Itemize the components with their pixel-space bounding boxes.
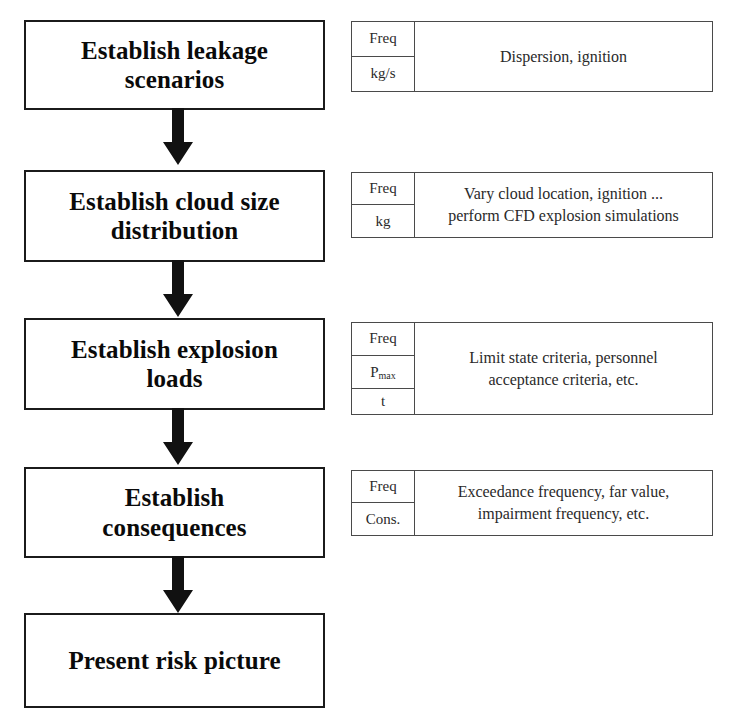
note-unit-cell: Freq xyxy=(352,173,414,205)
note-unit-cell: kg xyxy=(352,205,414,237)
flowchart-canvas: Establish leakage scenarios Freq kg/s Di… xyxy=(0,0,730,726)
flow-arrow-3 xyxy=(160,408,196,466)
flow-step-box-2[interactable]: Establish cloud size distribution xyxy=(24,170,325,262)
note-table-3: Freq Pmax t Limit state criteria, person… xyxy=(351,322,713,415)
note-unit-label: kg/s xyxy=(370,65,395,82)
note-table-1: Freq kg/s Dispersion, ignition xyxy=(351,21,713,92)
flow-step-label-2: Establish cloud size distribution xyxy=(69,187,279,246)
note-description-3: Limit state criteria, personnel acceptan… xyxy=(415,323,712,414)
flow-step-label-1: Establish leakage scenarios xyxy=(81,36,268,95)
flow-step-box-5[interactable]: Present risk picture xyxy=(24,613,325,708)
note-unit-label: Freq xyxy=(369,478,397,495)
flow-step-box-3[interactable]: Establish explosion loads xyxy=(24,318,325,410)
flow-step-box-1[interactable]: Establish leakage scenarios xyxy=(24,20,325,110)
note-description-text: Vary cloud location, ignition ... perfor… xyxy=(448,183,679,226)
note-unit-label: Freq xyxy=(369,330,397,347)
note-unit-cell: Freq xyxy=(352,471,414,503)
note-units-2: Freq kg xyxy=(352,173,415,237)
note-unit-cell: t xyxy=(352,389,414,414)
flow-arrow-4 xyxy=(160,556,196,614)
note-table-4: Freq Cons. Exceedance frequency, far val… xyxy=(351,470,713,536)
note-unit-subscript: max xyxy=(379,370,396,381)
note-description-text: Exceedance frequency, far value, impairm… xyxy=(458,481,670,524)
note-unit-label: kg xyxy=(376,213,391,230)
note-description-text: Dispersion, ignition xyxy=(500,46,627,68)
note-unit-label: Freq xyxy=(369,180,397,197)
flow-step-label-5: Present risk picture xyxy=(68,646,280,676)
note-unit-label: Cons. xyxy=(366,511,401,528)
flow-step-label-3: Establish explosion loads xyxy=(71,335,278,394)
note-units-3: Freq Pmax t xyxy=(352,323,415,414)
note-unit-label: t xyxy=(381,393,385,410)
note-description-2: Vary cloud location, ignition ... perfor… xyxy=(415,173,712,237)
note-description-4: Exceedance frequency, far value, impairm… xyxy=(415,471,712,535)
note-units-1: Freq kg/s xyxy=(352,22,415,91)
note-unit-label: P xyxy=(370,364,378,381)
note-unit-cell: Cons. xyxy=(352,503,414,535)
note-unit-cell-pmax: Pmax xyxy=(352,356,414,390)
note-unit-cell: Freq xyxy=(352,22,414,57)
flow-step-box-4[interactable]: Establish consequences xyxy=(24,467,325,558)
note-description-1: Dispersion, ignition xyxy=(415,22,712,91)
note-unit-label: Freq xyxy=(369,30,397,47)
note-table-2: Freq kg Vary cloud location, ignition ..… xyxy=(351,172,713,238)
note-unit-cell: Freq xyxy=(352,323,414,356)
flow-arrow-2 xyxy=(160,260,196,318)
flow-arrow-1 xyxy=(160,108,196,166)
flow-step-label-4: Establish consequences xyxy=(102,483,246,542)
note-unit-cell: kg/s xyxy=(352,57,414,92)
note-description-text: Limit state criteria, personnel acceptan… xyxy=(469,347,657,390)
note-units-4: Freq Cons. xyxy=(352,471,415,535)
